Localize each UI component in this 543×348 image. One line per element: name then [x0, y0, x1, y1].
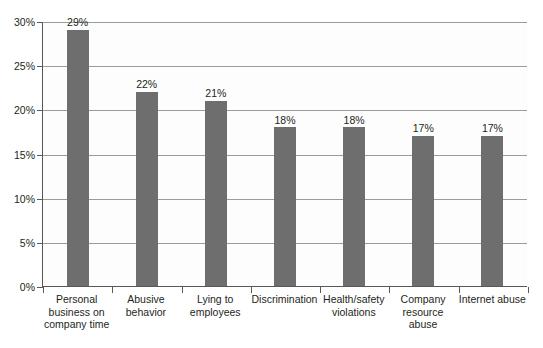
- bar-chart-figure: 0%5%10%15%20%25%30% 29%22%21%18%18%17%17…: [0, 0, 543, 348]
- y-axis-tick-label: 15%: [1, 150, 35, 160]
- y-axis-tick-label: 20%: [1, 105, 35, 115]
- x-axis-category-label: Discrimination: [250, 293, 319, 331]
- bar-value-label: 22%: [136, 79, 157, 90]
- x-axis-category-label: Abusive behavior: [111, 293, 180, 331]
- x-axis-category-label: Personal business on company time: [42, 293, 111, 331]
- bar: [481, 136, 503, 286]
- bar-slot: 18%: [320, 22, 389, 286]
- bar-slot: 17%: [458, 22, 527, 286]
- bar: [412, 136, 434, 286]
- y-axis-tick-label: 0%: [1, 282, 35, 292]
- x-axis-category-label: Internet abuse: [458, 293, 527, 331]
- bar-slot: 21%: [181, 22, 250, 286]
- bar-value-label: 18%: [274, 115, 295, 126]
- x-axis-category-label: Lying to employees: [181, 293, 250, 331]
- bar-slot: 22%: [112, 22, 181, 286]
- bar-value-label: 18%: [344, 115, 365, 126]
- bar: [205, 101, 227, 287]
- bar-value-label: 29%: [67, 17, 88, 28]
- x-axis-labels: Personal business on company timeAbusive…: [42, 293, 527, 331]
- bar-slot: 18%: [250, 22, 319, 286]
- x-axis-category-label: Health/safety violations: [319, 293, 388, 331]
- y-axis-tick-label: 5%: [1, 238, 35, 248]
- bar: [136, 92, 158, 286]
- plot-area: 0%5%10%15%20%25%30% 29%22%21%18%18%17%17…: [42, 22, 527, 287]
- bar: [67, 30, 89, 286]
- bar-value-label: 21%: [205, 88, 226, 99]
- bar-slot: 29%: [43, 22, 112, 286]
- bar-series: 29%22%21%18%18%17%17%: [43, 22, 527, 286]
- bar-value-label: 17%: [482, 123, 503, 134]
- y-axis-tick-label: 25%: [1, 61, 35, 71]
- y-axis-tick-label: 10%: [1, 194, 35, 204]
- bar: [274, 127, 296, 286]
- bar: [343, 127, 365, 286]
- bar-value-label: 17%: [413, 123, 434, 134]
- y-axis-tick-label: 30%: [1, 17, 35, 27]
- x-axis-category-label: Company resource abuse: [388, 293, 457, 331]
- bar-slot: 17%: [389, 22, 458, 286]
- x-tick-mark: [528, 287, 529, 293]
